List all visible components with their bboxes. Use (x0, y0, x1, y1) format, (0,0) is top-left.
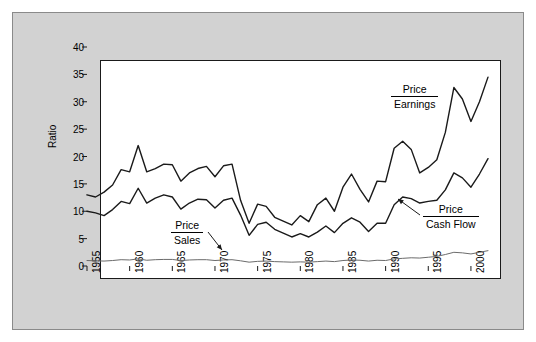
series-line-price-sales (87, 251, 488, 263)
screenshot-root: Ratio 0510152025303540 19551960196519701… (0, 0, 536, 342)
series-line-price-cash-flow (87, 159, 488, 237)
chart-lines-svg (0, 0, 536, 342)
leader-price-sales-arrowhead (217, 244, 222, 250)
leader-price-cash-flow-arrowhead (398, 199, 404, 204)
